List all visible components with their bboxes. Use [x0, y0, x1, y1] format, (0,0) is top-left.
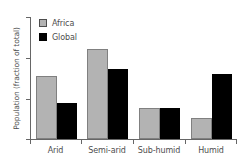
y-axis-title: Population (fraction of total) — [11, 17, 23, 140]
x-axis-tick — [236, 139, 237, 144]
x-axis-tick — [81, 139, 82, 144]
legend-item-global: Global — [39, 31, 77, 43]
x-axis-tick — [185, 139, 186, 144]
x-axis-label-semi-arid: Semi-arid — [81, 146, 133, 155]
legend-swatch-africa-icon — [39, 19, 47, 27]
bar-africa-sub-humid — [139, 108, 160, 139]
legend-label-global: Global — [52, 33, 77, 42]
x-axis-tick — [30, 139, 31, 144]
x-axis-label-sub-humid: Sub-humid — [133, 146, 185, 155]
bar-africa-semi-arid — [87, 49, 108, 139]
bar-africa-arid — [36, 76, 57, 139]
x-axis-label-arid: Arid — [30, 146, 81, 155]
bar-group-sub-humid — [133, 17, 185, 139]
legend-label-africa: Africa — [52, 19, 74, 28]
x-axis-tick — [133, 139, 134, 144]
bar-chart-figure: Population (fraction of total) Arid Semi… — [0, 0, 247, 168]
bar-group-humid — [185, 17, 237, 139]
bar-global-arid — [57, 103, 77, 139]
legend-item-africa: Africa — [39, 17, 77, 29]
x-axis-label-humid: Humid — [185, 146, 237, 155]
chart-legend: Africa Global — [39, 17, 77, 45]
bar-global-semi-arid — [108, 69, 128, 139]
bar-group-semi-arid — [81, 17, 133, 139]
legend-swatch-global-icon — [39, 33, 47, 41]
bar-africa-humid — [191, 118, 212, 139]
bar-global-sub-humid — [160, 108, 180, 139]
bar-global-humid — [212, 74, 232, 139]
